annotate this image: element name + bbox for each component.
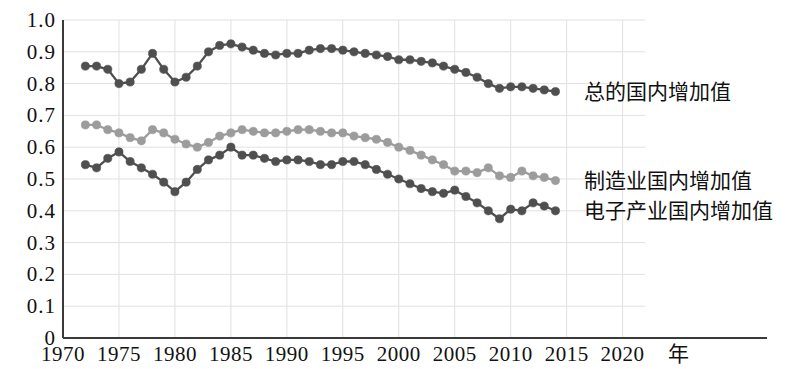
y-axis-tick-label: 0.4 xyxy=(27,201,56,222)
legend-label-electronics: 电子产业国内增加值 xyxy=(584,200,773,221)
y-axis-tick-label: 0.3 xyxy=(27,233,56,254)
x-axis-tick-label: 1995 xyxy=(321,344,365,365)
x-axis-tick-label: 2000 xyxy=(377,344,421,365)
y-axis-tick-label: 0.6 xyxy=(27,137,56,158)
legend-label-manufacturing: 制造业国内增加值 xyxy=(584,170,752,191)
x-axis-tick-label: 1975 xyxy=(97,344,141,365)
x-axis-tick-label: 2015 xyxy=(545,344,589,365)
y-axis-tick-label: 0.1 xyxy=(27,296,56,317)
x-axis-tick-label: 1990 xyxy=(265,344,309,365)
chart-series xyxy=(81,40,578,96)
x-axis-tick-label: 1970 xyxy=(41,344,85,365)
y-axis-tick-labels: 00.10.20.30.40.50.60.70.80.91.0 xyxy=(0,0,56,369)
x-axis-tick-label: 1985 xyxy=(209,344,253,365)
chart-container: 00.10.20.30.40.50.60.70.80.91.0 19701975… xyxy=(0,0,785,369)
x-axis-tick-label: 2005 xyxy=(433,344,477,365)
legend-label-total: 总的国内增加值 xyxy=(584,81,731,102)
y-axis-tick-label: 0.5 xyxy=(27,169,56,190)
y-axis-tick-label: 0.8 xyxy=(27,74,56,95)
y-axis-tick-label: 0.9 xyxy=(27,42,56,63)
y-axis-tick-label: 0.7 xyxy=(27,105,56,126)
chart-series-layer xyxy=(81,40,578,223)
y-axis-tick-label: 1.0 xyxy=(27,10,56,31)
x-axis-unit-label: 年 xyxy=(668,344,689,365)
y-axis-tick-label: 0.2 xyxy=(27,264,56,285)
x-axis-tick-label: 1980 xyxy=(153,344,197,365)
x-axis-tick-label: 2020 xyxy=(601,344,645,365)
x-axis-tick-label: 2010 xyxy=(489,344,533,365)
